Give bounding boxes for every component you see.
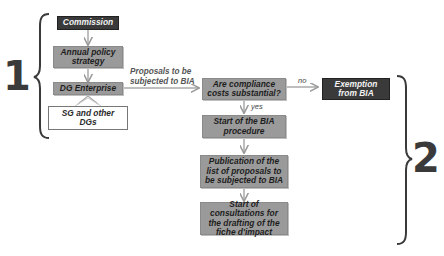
node-sg-other-dgs: SG and other DGs bbox=[48, 106, 128, 130]
brace-right bbox=[397, 76, 412, 244]
edge-label-no: no bbox=[298, 76, 306, 86]
node-dg-enterprise: DG Enterprise bbox=[53, 82, 123, 95]
node-exemption-from-bia: Exemption from BIA bbox=[322, 78, 390, 100]
edge-label-proposals: Proposals to be subjected to BIA bbox=[130, 67, 206, 86]
brace-left bbox=[34, 14, 49, 138]
node-commission: Commission bbox=[57, 16, 119, 30]
flow-diagram: 1 2 Commission Annual policy strategy DG… bbox=[0, 0, 444, 256]
stage-number-2: 2 bbox=[412, 138, 440, 178]
stage-number-1: 1 bbox=[3, 56, 31, 96]
node-annual-policy-strategy: Annual policy strategy bbox=[53, 46, 123, 68]
node-start-bia-procedure: Start of the BIA procedure bbox=[202, 115, 286, 138]
edge-label-yes: yes bbox=[251, 102, 263, 112]
node-start-consultations: Start of consultations for the drafting … bbox=[200, 202, 288, 235]
node-compliance-question: Are compliance costs substantial? bbox=[202, 78, 286, 100]
node-publication-list: Publication of the list of proposals to … bbox=[200, 155, 288, 188]
